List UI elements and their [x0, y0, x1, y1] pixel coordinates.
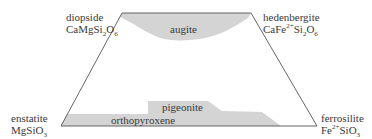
- ferrosilite-name: ferrosilite: [321, 112, 364, 124]
- diopside-formula: CaMgSi2O6: [66, 23, 118, 35]
- enstatite-name: enstatite: [11, 112, 48, 124]
- ferrosilite-formula: Fe2+SiO3: [321, 124, 364, 136]
- label-ferrosilite: ferrosilite Fe2+SiO3: [321, 112, 364, 136]
- hedenbergite-formula: CaFe2+Si2O6: [263, 23, 320, 35]
- label-augite: augite: [170, 23, 197, 35]
- diopside-name: diopside: [66, 11, 118, 23]
- hedenbergite-name: hedenbergite: [263, 11, 320, 23]
- label-diopside: diopside CaMgSi2O6: [66, 11, 118, 35]
- label-hedenbergite: hedenbergite CaFe2+Si2O6: [263, 11, 320, 35]
- label-enstatite: enstatite MgSiO3: [11, 112, 48, 136]
- label-orthopyroxene: orthopyroxene: [111, 114, 175, 126]
- enstatite-formula: MgSiO3: [11, 124, 48, 136]
- label-pigeonite: pigeonite: [162, 101, 203, 113]
